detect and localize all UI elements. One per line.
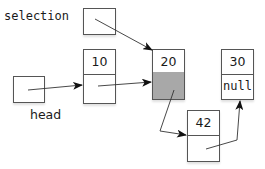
node-next-pointer (84, 73, 115, 103)
node-value: 10 (84, 50, 115, 75)
selection-pointer-box (83, 8, 116, 35)
head-pointer-box (13, 76, 45, 103)
node-next-null: null (222, 73, 253, 99)
node-42: 42 (187, 110, 220, 162)
linked-list-diagram: selection head 10 20 30 null 42 (0, 0, 265, 169)
node-value: 30 (222, 50, 253, 75)
node-value: 42 (188, 111, 219, 136)
node-value: 20 (153, 50, 184, 74)
node-10: 10 (83, 49, 116, 104)
node-30: 30 null (221, 49, 254, 100)
head-label: head (30, 107, 61, 122)
node-next-pointer (188, 134, 219, 161)
node-20: 20 (152, 49, 185, 100)
node-next-pointer-selected (153, 72, 184, 99)
selection-label: selection (4, 9, 69, 23)
